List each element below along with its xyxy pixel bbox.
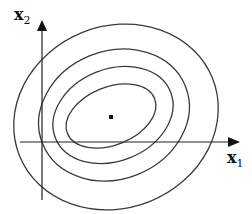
x1-axis-label: x1	[227, 148, 244, 170]
x2-axis-arrowhead-icon	[37, 20, 47, 31]
contour-ellipses	[0, 0, 247, 214]
x1-axis-arrowhead-icon	[228, 137, 240, 147]
x2-axis	[37, 20, 47, 200]
contour-2	[19, 27, 210, 203]
x2-axis-label: x2	[14, 5, 31, 27]
center-point	[109, 115, 113, 119]
contour-outer	[0, 0, 247, 214]
contour-diagram: x2 x1	[0, 0, 252, 214]
